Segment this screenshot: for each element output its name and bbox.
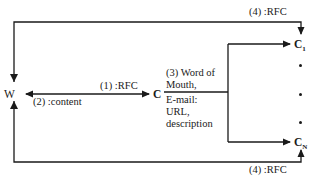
- edge-3-label-line: Mouth,: [166, 79, 197, 91]
- ellipsis-dot: [299, 121, 302, 124]
- edge-1-label: (1) :RFC: [100, 80, 138, 92]
- ellipsis-dot: [299, 93, 302, 96]
- node-c1-subscript: 1: [302, 45, 306, 53]
- edge-4-bottom-label: (4) :RFC: [249, 164, 287, 176]
- ellipsis-dot: [299, 64, 302, 67]
- node-c1: C1: [294, 38, 306, 55]
- node-w: W: [4, 88, 15, 100]
- edge-3-label-line: (3) Word of: [166, 67, 215, 79]
- edge-3-label-line: URL,: [166, 106, 190, 118]
- edge-3-label-line: description: [166, 118, 213, 130]
- edge-3-label-line: E-mail:: [166, 94, 198, 106]
- node-cn: CN: [294, 136, 307, 153]
- node-c: C: [153, 88, 161, 100]
- node-cn-subscript: N: [302, 143, 307, 151]
- edge-4-bottom: [10, 101, 301, 162]
- edge-4-top: [10, 22, 301, 82]
- edge-2-label: (2) :content: [33, 96, 82, 108]
- edge-4-top-label: (4) :RFC: [249, 6, 287, 18]
